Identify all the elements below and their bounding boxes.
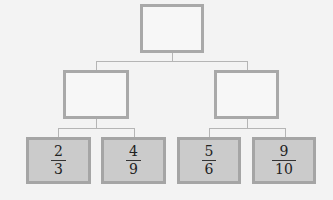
numerator: 9 xyxy=(277,144,292,159)
fraction: 2 3 xyxy=(51,144,66,177)
connector xyxy=(247,61,248,70)
connector xyxy=(247,119,248,128)
right-node-box xyxy=(214,70,279,119)
root-box xyxy=(140,4,204,53)
connector xyxy=(96,119,97,128)
connector xyxy=(285,128,286,137)
left-node-box xyxy=(63,70,129,119)
leaf-box-2: 4 9 xyxy=(101,137,166,184)
connector xyxy=(209,128,210,137)
fraction: 9 10 xyxy=(272,144,296,177)
connector xyxy=(209,128,286,129)
connector xyxy=(96,61,97,70)
leaf-box-3: 5 6 xyxy=(177,137,241,184)
leaf-box-1: 2 3 xyxy=(26,137,91,184)
connector xyxy=(96,61,248,62)
denominator: 10 xyxy=(272,162,296,177)
fraction: 5 6 xyxy=(202,144,217,177)
connector xyxy=(58,128,135,129)
connector xyxy=(134,128,135,137)
numerator: 2 xyxy=(51,144,66,159)
fraction: 4 9 xyxy=(126,144,141,177)
numerator: 4 xyxy=(126,144,141,159)
numerator: 5 xyxy=(202,144,217,159)
denominator: 9 xyxy=(126,162,141,177)
connector xyxy=(58,128,59,137)
connector xyxy=(172,53,173,61)
denominator: 6 xyxy=(202,162,217,177)
leaf-box-4: 9 10 xyxy=(252,137,316,184)
denominator: 3 xyxy=(51,162,66,177)
